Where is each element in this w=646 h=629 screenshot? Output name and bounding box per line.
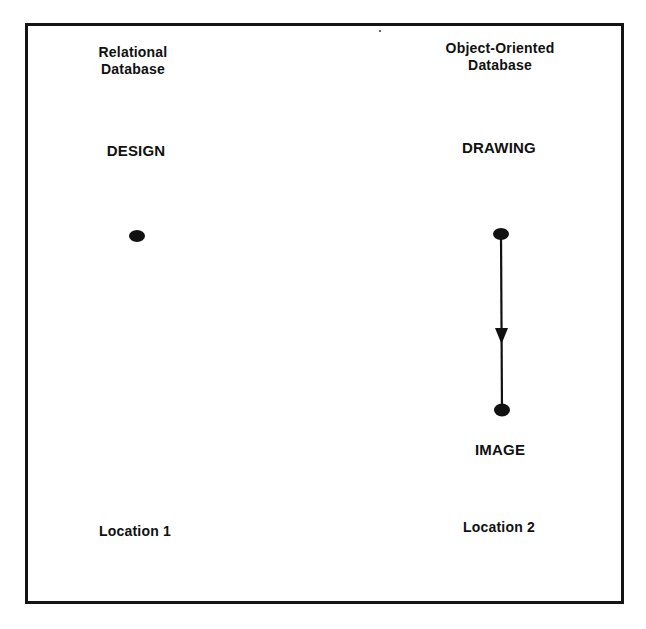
location-1-label: Location 1	[99, 523, 171, 540]
entity-drawing-label: DRAWING	[462, 139, 536, 157]
relational-database-title: Relational Database	[99, 44, 168, 78]
entity-design-label: DESIGN	[107, 142, 166, 160]
object-oriented-database-title: Object-Oriented Database	[446, 40, 555, 74]
relational-title-line2: Database	[99, 61, 168, 78]
oo-title-line2: Database	[446, 57, 555, 74]
entity-image-label: IMAGE	[475, 441, 525, 459]
scan-artifact	[379, 30, 381, 32]
location-2-label: Location 2	[463, 519, 535, 536]
diagram-frame	[25, 23, 624, 604]
oo-title-line1: Object-Oriented	[446, 40, 555, 57]
relational-title-line1: Relational	[99, 44, 168, 61]
